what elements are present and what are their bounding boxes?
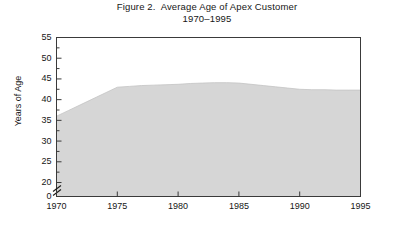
y-tick-label-45: 45 [30, 73, 52, 83]
figure-container: Figure 2. Average Age of Apex Customer 1… [0, 0, 414, 227]
x-tick-label-1975: 1975 [97, 201, 137, 211]
x-tick-label-1985: 1985 [219, 201, 259, 211]
y-axis-label: Years of Age [13, 61, 23, 141]
y-tick-label-0: 0 [30, 191, 52, 201]
y-tick-label-55: 55 [30, 32, 52, 42]
chart-canvas [0, 0, 414, 227]
x-tick-label-1990: 1990 [280, 201, 320, 211]
y-tick-label-30: 30 [30, 136, 52, 146]
x-tick-label-1970: 1970 [37, 201, 77, 211]
plot-area: Years of Age 55504540353025200 197019751… [0, 0, 414, 227]
y-tick-label-35: 35 [30, 115, 52, 125]
x-tick-label-1980: 1980 [158, 201, 198, 211]
y-tick-label-50: 50 [30, 53, 52, 63]
y-tick-label-20: 20 [30, 177, 52, 187]
y-tick-label-25: 25 [30, 156, 52, 166]
y-tick-label-40: 40 [30, 94, 52, 104]
x-tick-label-1995: 1995 [341, 201, 381, 211]
